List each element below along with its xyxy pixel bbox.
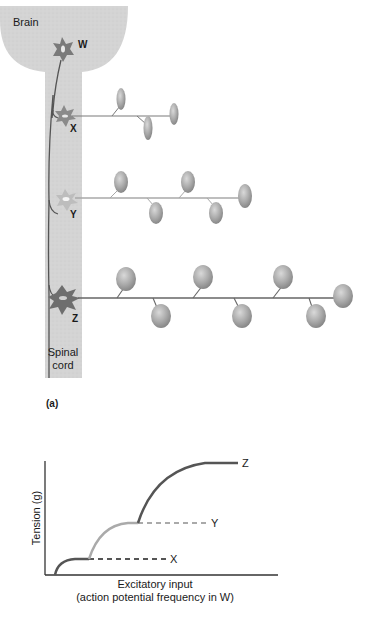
muscle-fiber [151, 304, 171, 328]
tension-graph: Tension (g) Excitatory input (action pot… [30, 457, 278, 603]
panel-a: Brain W X Y [0, 6, 353, 409]
muscle-fiber [333, 284, 353, 308]
motor-unit-recruitment-figure: Brain W X Y [0, 0, 368, 621]
muscle-fiber [238, 184, 252, 208]
muscle-fiber [181, 171, 195, 193]
y-axis-label: Tension (g) [30, 491, 42, 545]
neuron-z-label: Z [72, 313, 78, 324]
x-axis-sublabel: (action potential frequency in W) [76, 591, 234, 603]
curve-x [55, 559, 89, 575]
x-axis-label: Excitatory input [117, 578, 192, 590]
motor-unit-z: Z [48, 265, 353, 328]
muscle-fiber [306, 304, 326, 328]
neuron-y-label: Y [70, 209, 77, 220]
muscle-fiber [273, 265, 293, 289]
curve-z-label: Z [242, 457, 249, 469]
neuron-w-label: W [78, 39, 88, 50]
panel-a-label: (a) [46, 398, 58, 409]
spinal-cord-label: Spinal [48, 346, 79, 358]
curve-x-label: X [170, 553, 178, 565]
muscle-fiber [144, 116, 153, 140]
curve-y-label: Y [211, 517, 219, 529]
curve-z [138, 463, 238, 523]
muscle-fiber [193, 265, 213, 289]
motor-unit-y: Y [56, 171, 252, 224]
neuron-x-label: X [70, 123, 77, 134]
muscle-fiber [114, 171, 128, 193]
muscle-fiber [149, 202, 163, 224]
muscle-fiber [170, 103, 179, 125]
muscle-fiber [117, 88, 126, 110]
muscle-fiber [116, 267, 136, 291]
curve-y [89, 523, 138, 559]
brain-label: Brain [13, 16, 39, 28]
muscle-fiber [232, 304, 252, 328]
muscle-fiber [209, 202, 223, 224]
spinal-cord-label-2: cord [52, 359, 73, 371]
